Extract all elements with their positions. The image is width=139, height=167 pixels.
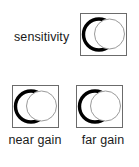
near-gain-label: near gain [0,133,70,148]
sensitivity-label: sensitivity [14,30,78,45]
control-sensitivity: sensitivity [0,0,139,68]
knob-diagram: sensitivity near gain [0,0,139,167]
sensitivity-knob[interactable] [80,13,127,56]
near-gain-knob[interactable] [12,85,59,128]
far-gain-knob[interactable] [76,85,123,128]
far-gain-label: far gain [68,133,138,148]
